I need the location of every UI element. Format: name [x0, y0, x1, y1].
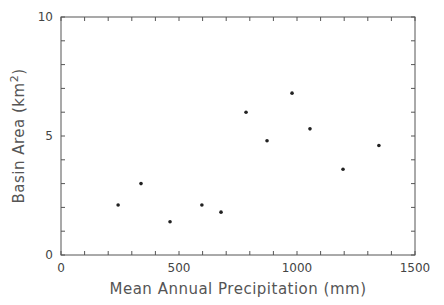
- y-tick-label: 0: [45, 248, 53, 262]
- y-tick-label: 10: [38, 10, 53, 24]
- x-tick-label: 500: [168, 261, 191, 275]
- x-axis-title: Mean Annual Precipitation (mm): [110, 280, 367, 298]
- x-tick-label: 1500: [400, 261, 431, 275]
- plot-frame: [61, 17, 415, 255]
- data-point: [219, 210, 223, 214]
- y-axis-title: Basin Area (km2): [8, 68, 28, 203]
- y-tick-label: 5: [45, 129, 53, 143]
- data-points: [116, 91, 380, 223]
- data-point: [168, 220, 172, 224]
- scatter-chart: 0500100015000510 Mean Annual Precipitati…: [0, 0, 444, 305]
- data-point: [139, 182, 143, 186]
- data-point: [308, 127, 312, 131]
- data-point: [290, 91, 294, 95]
- x-tick-label: 1000: [282, 261, 313, 275]
- tick-labels: 0500100015000510: [38, 10, 431, 275]
- x-tick-label: 0: [57, 261, 65, 275]
- data-point: [200, 203, 204, 207]
- axis-ticks: [61, 17, 415, 255]
- data-point: [265, 139, 269, 143]
- data-point: [377, 144, 381, 148]
- data-point: [244, 110, 248, 114]
- data-point: [341, 168, 345, 172]
- data-point: [116, 203, 120, 207]
